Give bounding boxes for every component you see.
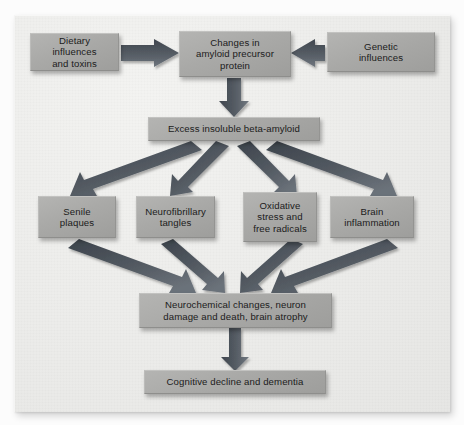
- node-genetic-influences[interactable]: Genetic influences: [327, 32, 435, 72]
- node-senile-plaques[interactable]: Senile plaques: [38, 196, 116, 238]
- node-neurofibrillary-tangles[interactable]: Neurofibrillary tangles: [136, 196, 215, 238]
- node-cognitive-decline[interactable]: Cognitive decline and dementia: [144, 370, 326, 394]
- node-neurochemical-changes[interactable]: Neurochemical changes, neuron damage and…: [139, 293, 332, 328]
- arrow-dietary-to-app: [121, 39, 179, 67]
- arrow-genetic-to-app: [291, 39, 325, 67]
- node-oxidative-stress[interactable]: Oxidative stress and free radicals: [243, 192, 317, 242]
- node-amyloid-precursor-protein[interactable]: Changes in amyloid precursor protein: [179, 31, 291, 77]
- node-excess-beta-amyloid[interactable]: Excess insoluble beta-amyloid: [148, 117, 320, 141]
- arrow-neurochemical-to-cognitive: [221, 328, 249, 371]
- arrow-app-to-beta-amyloid: [219, 78, 249, 117]
- node-brain-inflammation[interactable]: Brain inflammation: [330, 196, 414, 238]
- node-dietary-influences[interactable]: Dietary influences and toxins: [30, 33, 119, 71]
- diagram-canvas: Dietary influences and toxins Changes in…: [0, 0, 464, 425]
